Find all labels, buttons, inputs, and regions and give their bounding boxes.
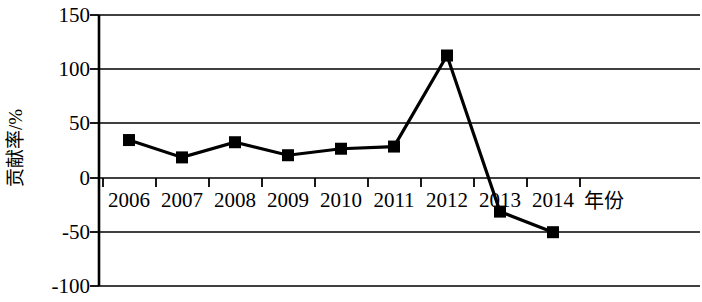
data-point-2008 [229,136,241,148]
x-axis-ticks [103,178,580,187]
data-point-2009 [282,149,294,161]
y-axis-ticks [90,15,99,286]
data-point-2012 [441,50,453,62]
data-point-2011 [388,141,400,153]
line-chart: 贡献率/% 150 100 50 0 -50 -100 2006 2007 20… [0,0,702,302]
data-point-2007 [176,151,188,163]
plot-area [0,0,702,302]
data-point-2010 [335,143,347,155]
data-point-2014 [547,226,559,238]
data-point-2013 [494,206,506,218]
data-point-2006 [123,134,135,146]
series-markers [123,50,559,239]
